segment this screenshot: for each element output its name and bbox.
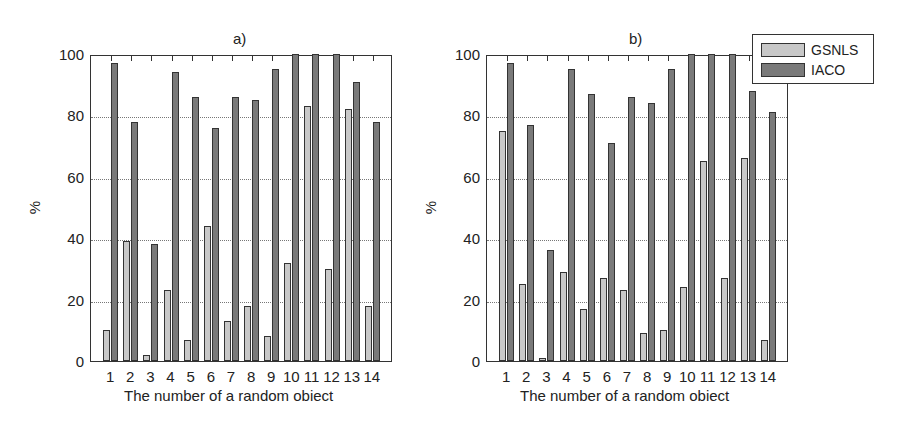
- bar-gsnls-4: [560, 272, 567, 361]
- y-tick-label: 60: [440, 169, 480, 186]
- y-tick-label: 0: [44, 353, 84, 370]
- bar-gsnls-7: [224, 321, 231, 361]
- legend-swatch-iaco: [761, 63, 805, 77]
- y-tick-label: 100: [44, 46, 84, 63]
- bar-gsnls-2: [123, 241, 130, 361]
- legend-swatch-gsnls: [761, 43, 805, 57]
- bar-iaco-12: [729, 54, 736, 361]
- bar-iaco-6: [608, 143, 615, 361]
- x-tick-mark: [588, 56, 589, 61]
- y-tick-label: 100: [440, 46, 480, 63]
- x-axis-label: The number of a random obiect: [520, 387, 729, 404]
- legend-label: IACO: [811, 62, 845, 78]
- bar-gsnls-14: [365, 306, 372, 361]
- bar-iaco-3: [151, 244, 158, 361]
- x-tick-label: 2: [515, 368, 537, 385]
- x-tick-mark: [628, 56, 629, 61]
- y-tick-label: 40: [44, 230, 84, 247]
- y-axis-label: %: [422, 200, 439, 213]
- plot-area: [90, 55, 392, 362]
- x-tick-label: 4: [160, 368, 182, 385]
- x-tick-mark: [272, 56, 273, 61]
- bar-gsnls-12: [721, 278, 728, 361]
- y-tick-label: 80: [44, 107, 84, 124]
- bar-iaco-14: [373, 122, 380, 361]
- y-tick-label: 0: [440, 353, 480, 370]
- bar-gsnls-3: [539, 358, 546, 361]
- x-tick-label: 11: [696, 368, 718, 385]
- x-tick-label: 6: [596, 368, 618, 385]
- chart-title: b): [629, 30, 642, 47]
- legend: GSNLS IACO: [752, 34, 874, 84]
- y-tick-label: 40: [440, 230, 480, 247]
- x-tick-label: 6: [200, 368, 222, 385]
- bar-gsnls-9: [660, 330, 667, 361]
- x-tick-label: 8: [240, 368, 262, 385]
- x-tick-label: 2: [119, 368, 141, 385]
- x-tick-label: 13: [737, 368, 759, 385]
- chart-title: a): [233, 30, 246, 47]
- x-tick-label: 8: [636, 368, 658, 385]
- bar-gsnls-11: [304, 106, 311, 361]
- bar-iaco-7: [232, 97, 239, 361]
- x-tick-label: 1: [99, 368, 121, 385]
- bar-iaco-11: [312, 54, 319, 361]
- bar-gsnls-10: [680, 287, 687, 361]
- bar-iaco-2: [527, 125, 534, 361]
- bar-gsnls-2: [519, 284, 526, 361]
- bar-iaco-10: [292, 54, 299, 361]
- x-tick-label: 7: [616, 368, 638, 385]
- x-tick-label: 9: [260, 368, 282, 385]
- bar-iaco-8: [252, 100, 259, 361]
- x-tick-mark: [232, 56, 233, 61]
- bar-iaco-7: [628, 97, 635, 361]
- x-tick-mark: [507, 56, 508, 61]
- bar-gsnls-6: [204, 226, 211, 361]
- bar-iaco-6: [212, 128, 219, 361]
- bar-gsnls-10: [284, 263, 291, 361]
- bar-iaco-8: [648, 103, 655, 361]
- x-tick-mark: [749, 56, 750, 61]
- bar-iaco-2: [131, 122, 138, 361]
- bar-iaco-5: [588, 94, 595, 361]
- x-tick-mark: [252, 56, 253, 61]
- x-tick-label: 9: [656, 368, 678, 385]
- x-tick-mark: [192, 56, 193, 61]
- plot-area: [486, 55, 788, 362]
- x-tick-label: 4: [556, 368, 578, 385]
- bar-gsnls-13: [345, 109, 352, 361]
- y-axis-label: %: [26, 200, 43, 213]
- x-tick-mark: [668, 56, 669, 61]
- bar-iaco-4: [172, 72, 179, 361]
- x-tick-mark: [172, 56, 173, 61]
- y-tick-label: 20: [44, 292, 84, 309]
- x-axis-label: The number of a random obiect: [124, 387, 333, 404]
- x-tick-mark: [353, 56, 354, 61]
- x-tick-label: 14: [361, 368, 383, 385]
- x-tick-mark: [131, 56, 132, 61]
- bar-gsnls-5: [580, 309, 587, 361]
- bar-iaco-12: [333, 54, 340, 361]
- x-tick-label: 1: [495, 368, 517, 385]
- x-tick-label: 3: [535, 368, 557, 385]
- bar-iaco-10: [688, 54, 695, 361]
- legend-label: GSNLS: [811, 42, 858, 58]
- x-tick-mark: [373, 56, 374, 61]
- bar-iaco-9: [668, 69, 675, 361]
- legend-item-iaco: IACO: [761, 61, 845, 79]
- bar-iaco-4: [568, 69, 575, 361]
- x-tick-label: 5: [180, 368, 202, 385]
- bar-gsnls-8: [244, 306, 251, 361]
- x-tick-label: 5: [576, 368, 598, 385]
- bar-gsnls-5: [184, 340, 191, 361]
- bar-gsnls-9: [264, 336, 271, 361]
- x-tick-mark: [648, 56, 649, 61]
- x-tick-label: 10: [676, 368, 698, 385]
- x-tick-mark: [608, 56, 609, 61]
- x-tick-mark: [111, 56, 112, 61]
- x-tick-mark: [151, 56, 152, 61]
- bar-iaco-13: [749, 91, 756, 361]
- bar-gsnls-11: [700, 161, 707, 361]
- bar-iaco-13: [353, 82, 360, 361]
- x-tick-label: 11: [300, 368, 322, 385]
